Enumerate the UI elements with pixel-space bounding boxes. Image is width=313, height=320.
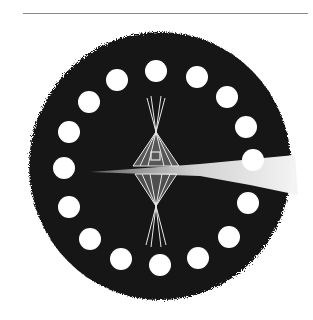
white-dot	[186, 66, 208, 88]
white-dot	[58, 196, 80, 218]
white-dot	[242, 149, 264, 171]
artwork-drawing	[0, 0, 313, 320]
white-dot	[78, 91, 100, 113]
white-dot	[149, 254, 171, 276]
white-dot	[235, 116, 257, 138]
white-dot	[79, 228, 101, 250]
white-dot	[218, 226, 240, 248]
white-dot	[187, 247, 209, 269]
white-dot	[145, 60, 167, 82]
white-dot	[53, 157, 75, 179]
white-dot	[110, 248, 132, 270]
white-dot	[106, 69, 128, 91]
white-dot	[216, 86, 238, 108]
white-dot	[237, 192, 259, 214]
white-dot	[58, 121, 80, 143]
